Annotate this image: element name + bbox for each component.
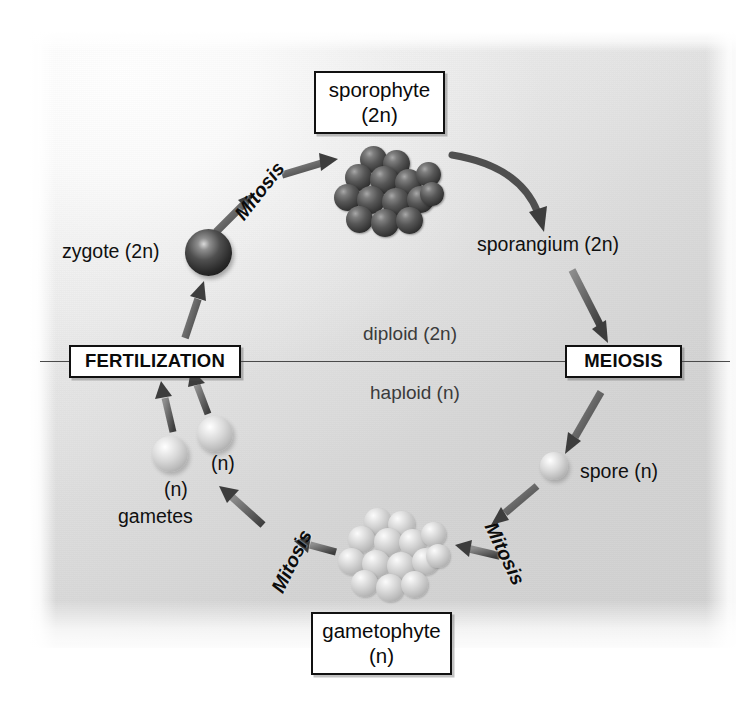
meiosis-label-text: MEIOSIS <box>584 350 663 372</box>
zygote-label: zygote (2n) <box>62 240 160 262</box>
spore-label: spore (n) <box>580 460 658 482</box>
fertilization-label-text: FERTILIZATION <box>85 350 225 372</box>
diploid-zone-label: diploid (2n) <box>363 323 457 345</box>
gametophyte-label-line2: (n) <box>369 644 394 669</box>
zygote-cell <box>185 229 232 276</box>
haploid-zone-label: haploid (n) <box>370 382 460 404</box>
gamete-left-ploidy-label: (n) <box>164 478 188 500</box>
gamete-cell-left <box>152 436 188 472</box>
gametophyte-label-line1: gametophyte <box>322 619 441 644</box>
spore-cell <box>540 452 568 480</box>
fertilization-label-box: FERTILIZATION <box>69 345 241 378</box>
gametophyte-cell-cluster <box>338 508 456 604</box>
gamete-cell-right <box>197 416 233 452</box>
gamete-right-ploidy-label: (n) <box>211 452 235 474</box>
gametophyte-label-box: gametophyte (n) <box>311 612 452 675</box>
sporophyte-cell-cluster <box>332 146 448 238</box>
sporophyte-label-box: sporophyte (2n) <box>314 71 445 134</box>
life-cycle-figure: sporophyte (2n) gametophyte (n) FERTILIZ… <box>0 0 754 714</box>
sporophyte-label-line2: (2n) <box>361 103 397 128</box>
meiosis-label-box: MEIOSIS <box>565 345 682 378</box>
sporophyte-label-line1: sporophyte <box>329 78 430 103</box>
sporangium-label: sporangium (2n) <box>477 233 619 255</box>
gametes-label: gametes <box>118 505 193 527</box>
